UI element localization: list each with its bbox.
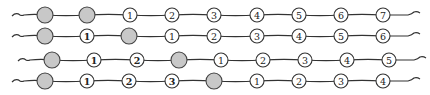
node-label: 2 — [260, 55, 266, 66]
node-label: 2 — [169, 10, 175, 21]
node-label: 2 — [126, 76, 133, 87]
node-label: 2 — [211, 31, 217, 42]
node-label: 1 — [254, 76, 260, 87]
strand-row-4: 1231234 — [12, 73, 420, 89]
node-label: 5 — [338, 31, 344, 42]
node-label: 1 — [84, 31, 91, 42]
gray-node-icon — [206, 73, 222, 89]
strand-row-1: 1234567 — [12, 7, 420, 23]
node-label: 6 — [380, 31, 386, 42]
node-label: 7 — [380, 10, 386, 21]
node-label: 2 — [296, 76, 302, 87]
node-label: 3 — [169, 76, 176, 87]
gray-node-icon — [44, 52, 60, 68]
node-label: 4 — [254, 10, 260, 21]
node-label: 1 — [127, 10, 133, 21]
gray-node-icon — [79, 7, 95, 23]
gray-node-icon — [37, 73, 53, 89]
node-label: 3 — [254, 31, 260, 42]
node-label: 6 — [338, 10, 344, 21]
strand-row-3: 1212345 — [18, 52, 426, 68]
strand-row-2: 1123456 — [12, 28, 420, 44]
node-label: 5 — [296, 10, 302, 21]
node-label: 4 — [296, 31, 302, 42]
node-label: 4 — [380, 76, 386, 87]
strand-diagram: 1234567112345612123451231234 — [0, 0, 430, 95]
node-label: 1 — [84, 76, 91, 87]
node-label: 1 — [218, 55, 224, 66]
node-label: 1 — [91, 55, 98, 66]
node-label: 4 — [344, 55, 350, 66]
node-label: 3 — [302, 55, 308, 66]
node-label: 3 — [338, 76, 344, 87]
node-label: 2 — [134, 55, 141, 66]
gray-node-icon — [37, 7, 53, 23]
node-label: 5 — [386, 55, 392, 66]
gray-node-icon — [171, 52, 187, 68]
gray-node-icon — [37, 28, 53, 44]
node-label: 3 — [211, 10, 217, 21]
gray-node-icon — [121, 28, 137, 44]
node-label: 1 — [169, 31, 175, 42]
